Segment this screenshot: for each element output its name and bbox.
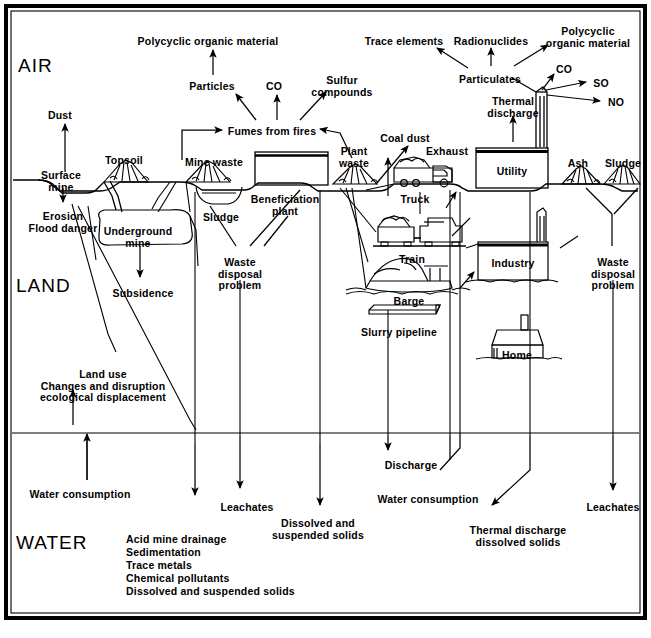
label-polycyclic-organic-material-left: Polycyclic organic material	[138, 36, 279, 48]
diagram-canvas: AIR LAND WATER Polycyclic organic materi…	[0, 0, 651, 638]
label-co-left: CO	[266, 81, 282, 93]
label-sludge-left: Sludge	[203, 212, 239, 224]
industry-plant-icon	[466, 208, 558, 282]
label-plant-waste: Plant waste	[339, 146, 369, 169]
label-industry: Industry	[491, 258, 534, 270]
flow-arrows	[63, 45, 638, 505]
label-trace-elements: Trace elements	[365, 36, 444, 48]
label-so: SO	[593, 78, 609, 90]
label-beneficiation-plant: Beneficiation plant	[251, 194, 320, 217]
label-thermal-discharge-dissolved-solids: Thermal discharge dissolved solids	[470, 525, 567, 548]
label-thermal-discharge: Thermal discharge	[487, 96, 538, 119]
beneficiation-plant-icon	[255, 152, 328, 185]
label-underground-mine: Underground mine	[104, 226, 173, 249]
label-co-right: CO	[556, 64, 572, 76]
label-train: Train	[399, 254, 425, 266]
label-waste-disposal-problem-right: Waste disposal problem	[591, 257, 635, 292]
label-mine-waste: Mine waste	[185, 157, 243, 169]
label-sludge-right: Sludge	[605, 158, 641, 170]
label-radionuclides: Radionuclides	[454, 36, 528, 48]
label-exhaust: Exhaust	[426, 146, 468, 158]
label-water-consumption-left: Water consumption	[29, 489, 130, 501]
label-coal-dust: Coal dust	[380, 133, 430, 145]
zone-label-land: LAND	[16, 275, 71, 297]
label-subsidence: Subsidence	[113, 288, 174, 300]
label-discharge: Discharge	[385, 460, 438, 472]
label-polycyclic-organic-material-right: Polycyclic organic material	[546, 26, 630, 49]
label-slurry-pipeline: Slurry pipeline	[361, 327, 437, 339]
label-dust: Dust	[48, 110, 72, 122]
label-no: NO	[608, 97, 624, 109]
label-home: Home	[502, 350, 532, 362]
label-land-use: Land use Changes and disruption ecologic…	[40, 369, 166, 404]
train-icon	[373, 216, 466, 246]
label-erosion-flood-danger: Erosion Flood danger	[29, 211, 98, 234]
label-ash: Ash	[568, 158, 588, 170]
label-utility: Utility	[497, 166, 528, 178]
label-leachates-right: Leachates	[586, 502, 639, 514]
label-surface-mine: Surface mine	[41, 170, 81, 193]
truck-icon	[394, 157, 452, 187]
label-particles: Particles	[189, 81, 235, 93]
label-barge: Barge	[394, 296, 425, 308]
zone-label-air: AIR	[18, 55, 53, 77]
label-water-consumption-right: Water consumption	[377, 494, 478, 506]
label-waste-disposal-problem-left: Waste disposal problem	[218, 257, 262, 292]
label-particulates: Particulates	[459, 74, 521, 86]
label-truck: Truck	[400, 194, 429, 206]
zone-label-water: WATER	[16, 532, 88, 554]
label-fumes-from-fires: Fumes from fires	[228, 126, 316, 138]
label-leachates-left: Leachates	[220, 502, 273, 514]
label-water-pollutants-list: Acid mine drainage Sedimentation Trace m…	[126, 533, 295, 598]
label-topsoil: Topsoil	[105, 155, 143, 167]
label-sulfur-compounds: Sulfur compounds	[311, 75, 372, 98]
